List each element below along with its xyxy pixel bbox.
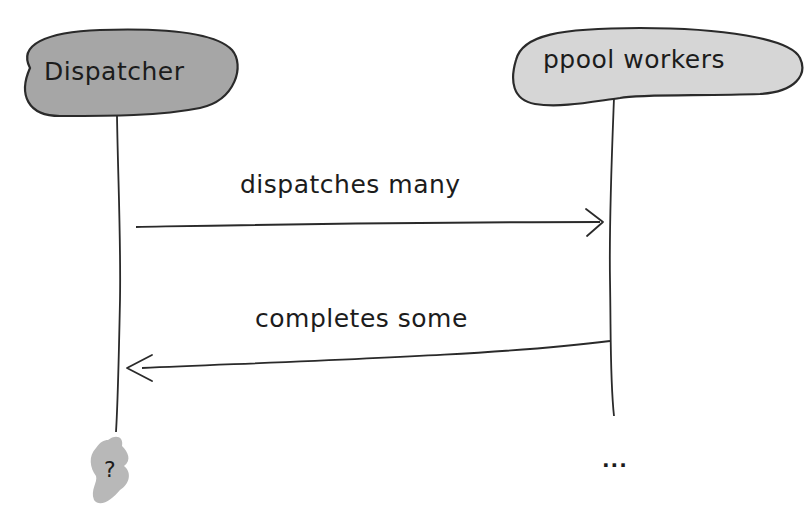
completes-arrow-line xyxy=(142,341,610,368)
completes-message-label: completes some xyxy=(255,304,468,333)
dispatches-arrow-line xyxy=(136,222,600,227)
dispatcher-lifeline xyxy=(116,116,120,432)
ellipsis-label: ... xyxy=(602,448,628,472)
workers-actor-label: ppool workers xyxy=(543,45,725,74)
question-mark-label: ? xyxy=(104,457,116,482)
workers-lifeline xyxy=(610,98,614,416)
dispatcher-actor-label: Dispatcher xyxy=(44,57,184,86)
dispatches-message-label: dispatches many xyxy=(240,170,461,199)
